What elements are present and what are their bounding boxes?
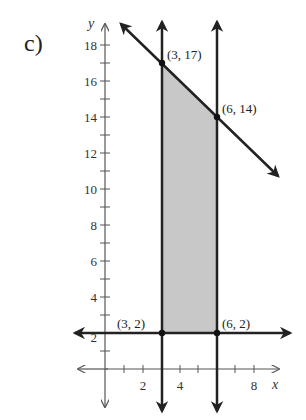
vertex-6-14: [214, 114, 220, 120]
y-tick-label: 14: [84, 110, 98, 125]
y-tick-label: 4: [91, 290, 98, 305]
vertex-6-2: [214, 330, 220, 336]
x-tick-label: 2: [140, 378, 147, 393]
y-tick-label: 8: [91, 218, 98, 233]
feasible-region: [162, 63, 217, 333]
point-label: (6, 2): [222, 316, 250, 331]
x-tick-label: 4: [177, 378, 184, 393]
y-axis-label: y: [86, 16, 95, 31]
x-axis-label: x: [271, 377, 279, 392]
y-tick-label: 16: [84, 74, 98, 89]
y-tick-label: 18: [84, 38, 97, 53]
vertex-3-17: [159, 60, 165, 66]
x-tick-label: 8: [251, 378, 258, 393]
y-tick-label: 12: [84, 146, 97, 161]
point-label: (6, 14): [222, 101, 257, 116]
point-label: (3, 17): [167, 47, 202, 62]
y-tick-label: 6: [91, 254, 98, 269]
point-label: (3, 2): [117, 316, 145, 331]
y-tick-label: 10: [84, 182, 97, 197]
vertex-3-2: [159, 330, 165, 336]
graph: 2 4 8 x 18 16 14 12 10 8 6 4 2 y (3, 17)…: [0, 0, 306, 420]
